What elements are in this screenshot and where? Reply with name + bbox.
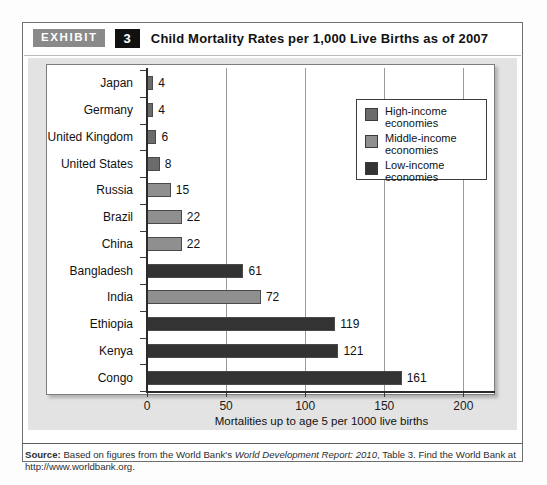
legend-label-high-income-line1: High-income bbox=[385, 105, 447, 117]
category-label: Congo bbox=[0, 371, 140, 385]
bar bbox=[147, 237, 182, 251]
x-axis-tick bbox=[463, 392, 464, 397]
source-note: Source: Based on figures from the World … bbox=[25, 449, 525, 473]
bar bbox=[147, 344, 338, 358]
category-label: India bbox=[0, 290, 140, 304]
exhibit-header: EXHIBIT 3 Child Mortality Rates per 1,00… bbox=[24, 24, 521, 52]
source-prefix: Source: bbox=[25, 449, 61, 460]
page-title: Child Mortality Rates per 1,000 Live Bir… bbox=[151, 31, 488, 46]
bar-value-label: 72 bbox=[266, 290, 279, 304]
category-label: Brazil bbox=[0, 210, 140, 224]
legend-swatch-high-income bbox=[365, 108, 378, 121]
bar bbox=[147, 76, 153, 90]
source-text-before: Based on figures from the World Bank's bbox=[61, 449, 235, 460]
bar bbox=[147, 210, 182, 224]
bar-value-label: 8 bbox=[165, 157, 172, 171]
category-label: Germany bbox=[0, 103, 140, 117]
legend-item-high-income: High-income economies bbox=[365, 106, 486, 129]
source-report-title: World Development Report: 2010 bbox=[235, 449, 377, 460]
x-axis-tick-label: 200 bbox=[453, 399, 473, 413]
bar-value-label: 22 bbox=[187, 237, 200, 251]
legend-label-low-income: Low-income economies bbox=[385, 160, 444, 183]
legend-item-middle-income: Middle-income economies bbox=[365, 133, 486, 156]
source-divider bbox=[22, 443, 523, 444]
x-axis-line bbox=[146, 391, 495, 393]
bar bbox=[147, 264, 243, 278]
gridline bbox=[305, 68, 306, 391]
category-label: China bbox=[0, 237, 140, 251]
legend-label-high-income: High-income economies bbox=[385, 106, 447, 129]
legend-label-middle-income-line1: Middle-income bbox=[385, 132, 457, 144]
bar-value-label: 22 bbox=[187, 210, 200, 224]
bar-value-label: 119 bbox=[340, 317, 359, 331]
bar bbox=[147, 317, 335, 331]
bar-value-label: 15 bbox=[176, 183, 189, 197]
category-label: Ethiopia bbox=[0, 317, 140, 331]
bar bbox=[147, 183, 171, 197]
x-axis-tick-label: 150 bbox=[374, 399, 394, 413]
bar-value-label: 4 bbox=[158, 103, 165, 117]
source-text-after: , Table 3. Find the World Bank at bbox=[377, 449, 516, 460]
bar-value-label: 4 bbox=[158, 76, 165, 90]
legend-label-middle-income: Middle-income economies bbox=[385, 133, 457, 156]
category-label: Japan bbox=[0, 76, 140, 90]
bar bbox=[147, 371, 402, 385]
bar-value-label: 161 bbox=[407, 371, 427, 385]
bar bbox=[147, 103, 153, 117]
x-axis-tick bbox=[305, 392, 306, 397]
x-axis-tick bbox=[226, 392, 227, 397]
exhibit-figure: EXHIBIT 3 Child Mortality Rates per 1,00… bbox=[0, 0, 547, 485]
chart-legend: High-income economies Middle-income econ… bbox=[356, 99, 487, 180]
legend-swatch-low-income bbox=[365, 162, 378, 175]
bar bbox=[147, 130, 156, 144]
exhibit-number-badge: 3 bbox=[115, 29, 140, 48]
category-label: Russia bbox=[0, 183, 140, 197]
category-label: Kenya bbox=[0, 344, 140, 358]
bar-value-label: 61 bbox=[248, 264, 261, 278]
gridline bbox=[226, 68, 227, 391]
y-axis-line bbox=[146, 68, 148, 392]
category-label: United Kingdom bbox=[0, 130, 140, 144]
bar bbox=[147, 157, 160, 171]
x-axis-tick bbox=[384, 392, 385, 397]
x-axis-tick-label: 50 bbox=[219, 399, 232, 413]
bar-value-label: 121 bbox=[343, 344, 363, 358]
legend-label-middle-income-line2: economies bbox=[385, 144, 438, 156]
x-axis-tick bbox=[147, 392, 148, 397]
source-url: http://www.worldbank.org. bbox=[25, 461, 135, 472]
category-label: United States bbox=[0, 157, 140, 171]
category-label: Bangladesh bbox=[0, 264, 140, 278]
bar bbox=[147, 290, 261, 304]
legend-item-low-income: Low-income economies bbox=[365, 160, 486, 183]
legend-swatch-middle-income bbox=[365, 135, 378, 148]
legend-label-low-income-line1: Low-income bbox=[385, 159, 444, 171]
header-divider bbox=[24, 55, 521, 56]
x-axis-tick-label: 100 bbox=[295, 399, 315, 413]
x-axis-title: Mortalities up to age 5 per 1000 live bi… bbox=[147, 415, 496, 427]
legend-label-high-income-line2: economies bbox=[385, 117, 438, 129]
bar-value-label: 6 bbox=[161, 130, 168, 144]
x-axis-tick-label: 0 bbox=[144, 399, 151, 413]
legend-label-low-income-line2: economies bbox=[385, 171, 438, 183]
exhibit-badge: EXHIBIT bbox=[33, 29, 105, 47]
